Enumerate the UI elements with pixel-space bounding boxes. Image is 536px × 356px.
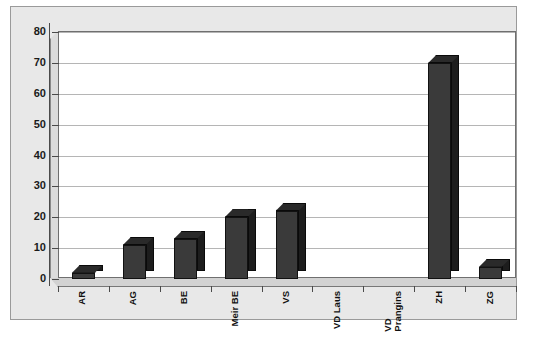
bar-side-face <box>248 209 256 271</box>
y-tick <box>52 279 59 280</box>
x-tick-label: Meir BE <box>230 291 240 326</box>
y-tick-label: 80 <box>34 26 46 37</box>
bar-side-face <box>298 203 306 271</box>
bar[interactable] <box>428 63 451 279</box>
x-tick-label: AG <box>128 291 138 305</box>
y-tick-label: 30 <box>34 180 46 191</box>
bar[interactable] <box>174 239 197 279</box>
y-axis-line <box>49 23 50 286</box>
x-tick-label: VD Prangins <box>383 291 403 332</box>
bar-slot <box>479 31 502 279</box>
y-tick-label: 20 <box>34 211 46 222</box>
bar-slot <box>276 31 299 279</box>
bar-series <box>58 31 516 279</box>
bar-slot <box>72 31 95 279</box>
y-axis: 01020304050607080 <box>11 7 46 321</box>
bar-slot <box>377 31 400 279</box>
bar-slot <box>174 31 197 279</box>
bar[interactable] <box>225 217 248 279</box>
x-tick-label: VD Laus <box>332 291 342 329</box>
x-tick-label: VS <box>281 291 291 304</box>
y-tick-label: 60 <box>34 88 46 99</box>
bar-slot <box>123 31 146 279</box>
bar-slot <box>428 31 451 279</box>
x-tick-label: BE <box>179 291 189 304</box>
y-tick-label: 50 <box>34 119 46 130</box>
y-tick-label: 40 <box>34 150 46 161</box>
bar-slot <box>326 31 349 279</box>
bar[interactable] <box>479 267 502 279</box>
y-tick-label: 10 <box>34 242 46 253</box>
chart-page: 01020304050607080 ARAGBEMeir BEVSVD Laus… <box>0 0 536 356</box>
x-axis-labels: ARAGBEMeir BEVSVD LausVD PranginsZHZG <box>58 291 524 325</box>
bar-slot <box>225 31 248 279</box>
y-tick-label: 70 <box>34 57 46 68</box>
bar-side-face <box>451 55 459 271</box>
y-tick-label: 0 <box>40 273 46 284</box>
chart-frame: 01020304050607080 ARAGBEMeir BEVSVD Laus… <box>10 6 517 320</box>
x-tick-label: ZG <box>485 291 495 304</box>
bar[interactable] <box>72 273 95 279</box>
x-tick-label: AR <box>77 291 87 305</box>
plot-left-wall <box>50 31 58 278</box>
bar[interactable] <box>123 245 146 279</box>
bar-top-face <box>72 265 103 273</box>
bar[interactable] <box>276 211 299 279</box>
x-tick-label: ZH <box>434 291 444 304</box>
